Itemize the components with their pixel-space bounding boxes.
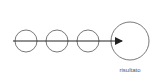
diagram-canvas: risultato	[0, 0, 163, 84]
result-label: risultato	[119, 67, 141, 73]
